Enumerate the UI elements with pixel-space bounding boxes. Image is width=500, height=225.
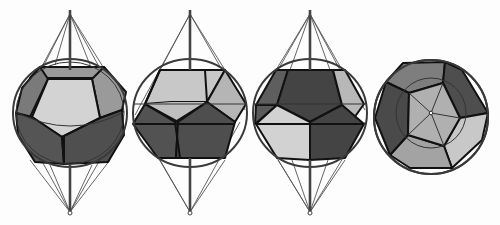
view-2-dodecahedron (133, 10, 247, 215)
view-3-dodecahedron (253, 10, 367, 215)
view-1-dodecahedron (13, 10, 127, 215)
view-4-dodecahedron-top (374, 60, 488, 174)
dodecahedron-diagram (0, 0, 500, 225)
